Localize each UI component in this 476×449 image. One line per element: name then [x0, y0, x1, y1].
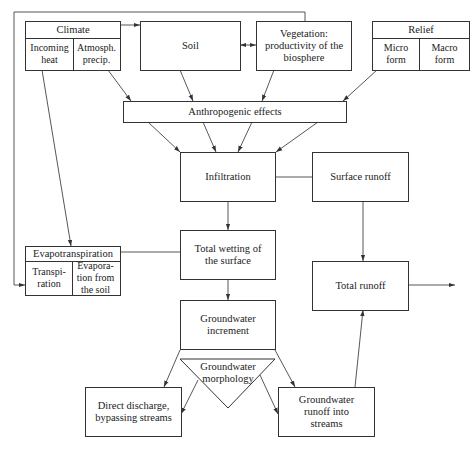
atmospheric-precipitation-cell: Atmosph. precip. — [73, 38, 120, 70]
climate-title: Climate — [26, 22, 120, 39]
anthropogenic-effects-box: Anthropogenic effects — [123, 101, 347, 123]
groundwater-runoff-box: Groundwater runoff into streams — [278, 387, 375, 437]
direct-discharge-box: Direct discharge, bypassing streams — [85, 387, 182, 437]
evaporation-from-soil-cell: Evapora-tion from the soil — [71, 261, 120, 295]
incoming-heat-cell: Incoming heat — [26, 38, 74, 70]
groundwater-morphology-label: Groundwater morphology — [196, 361, 260, 385]
total-wetting-box: Total wetting of the surface — [180, 230, 276, 280]
surface-runoff-box: Surface runoff — [312, 152, 409, 202]
transpiration-cell: Transpi-ration — [26, 261, 73, 295]
relief-title: Relief — [373, 22, 469, 39]
relief-box: Relief Micro form Macro form — [372, 21, 470, 71]
macro-form-cell: Macro form — [420, 38, 469, 70]
soil-box: Soil — [140, 21, 241, 71]
total-runoff-box: Total runoff — [312, 261, 409, 311]
climate-box: Climate Incoming heat Atmosph. precip. — [25, 21, 121, 71]
infiltration-box: Infiltration — [180, 152, 276, 202]
evapotranspiration-box: Evapotranspiration Transpi-ration Evapor… — [25, 246, 121, 296]
micro-form-cell: Micro form — [373, 38, 420, 70]
groundwater-increment-box: Groundwater increment — [180, 300, 276, 350]
vegetation-box: Vegetation: productivity of the biospher… — [256, 21, 352, 71]
